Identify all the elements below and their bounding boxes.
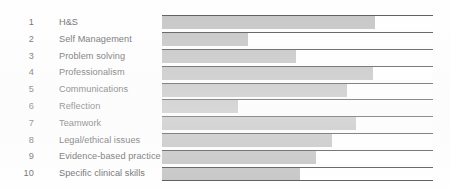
row-number: 3: [6, 48, 34, 65]
bar-fill: [162, 84, 347, 97]
row-label: Legal/ethical issues: [59, 132, 159, 149]
bar-fill: [162, 168, 300, 180]
row-label: Specific clinical skills: [59, 165, 159, 182]
table-row: 2Self Management: [0, 31, 450, 48]
table-row: 7Teamwork: [0, 115, 450, 132]
bar-track: [162, 116, 433, 130]
table-row: 4Professionalism: [0, 64, 450, 81]
bar-fill: [162, 151, 316, 164]
bar-fill: [162, 117, 356, 130]
row-number: 6: [6, 98, 34, 115]
row-label: Communications: [59, 81, 159, 98]
bar-track: [162, 150, 433, 164]
row-label: Reflection: [59, 98, 159, 115]
bar-track: [162, 83, 433, 97]
bar-track: [162, 99, 433, 113]
row-number: 8: [6, 132, 34, 149]
table-row: 1H&S: [0, 14, 450, 31]
row-label: Problem solving: [59, 48, 159, 65]
bar-track: [162, 32, 433, 46]
bar-track: [162, 167, 433, 181]
row-number: 9: [6, 148, 34, 165]
table-row: 6Reflection: [0, 98, 450, 115]
bar-fill: [162, 100, 238, 113]
row-number: 7: [6, 115, 34, 132]
row-number: 10: [6, 165, 34, 182]
row-number: 1: [6, 14, 34, 31]
bar-fill: [162, 67, 373, 80]
table-row: 9Evidence-based practice: [0, 148, 450, 165]
row-label: Teamwork: [59, 115, 159, 132]
row-number: 4: [6, 64, 34, 81]
row-number: 5: [6, 81, 34, 98]
table-row: 8Legal/ethical issues: [0, 132, 450, 149]
bar-track: [162, 133, 433, 147]
table-row: 5Communications: [0, 81, 450, 98]
bar-fill: [162, 134, 332, 147]
table-row: 3Problem solving: [0, 48, 450, 65]
bar-track: [162, 49, 433, 63]
bar-track: [162, 66, 433, 80]
bar-fill: [162, 50, 296, 63]
bar-track: [162, 15, 433, 29]
table-row: 10Specific clinical skills: [0, 165, 450, 182]
competency-bar-chart: 1H&S2Self Management3Problem solving4Pro…: [0, 0, 450, 189]
bar-fill: [162, 33, 248, 46]
row-number: 2: [6, 31, 34, 48]
row-label: H&S: [59, 14, 159, 31]
row-label: Self Management: [59, 31, 159, 48]
row-label: Evidence-based practice: [59, 148, 159, 165]
bar-fill: [162, 16, 375, 29]
row-label: Professionalism: [59, 64, 159, 81]
